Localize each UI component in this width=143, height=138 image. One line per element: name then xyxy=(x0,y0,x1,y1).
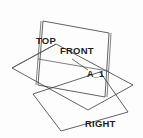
label-top: TOP xyxy=(36,35,56,46)
plane-top-edge-front-right xyxy=(88,85,133,110)
fold-line-left-extension xyxy=(12,44,56,68)
plane-front-edge-right xyxy=(105,33,109,97)
plane-front xyxy=(36,21,111,97)
plane-front-edge-top xyxy=(43,21,109,33)
label-front: FRONT xyxy=(60,45,94,56)
projection-planes-drawing: TOP FRONT A_1 RIGHT xyxy=(0,0,143,138)
plane-right-edge-right xyxy=(100,72,128,112)
label-right: RIGHT xyxy=(85,118,116,129)
label-point-a1: A_1 xyxy=(87,69,104,79)
point-leader-line xyxy=(72,59,88,70)
plane-top-edge-front-left xyxy=(12,68,88,110)
plane-front-edge-bottom xyxy=(38,85,105,97)
plane-right-edge-left xyxy=(33,94,61,131)
diagram-canvas: TOP FRONT A_1 RIGHT xyxy=(0,0,143,138)
